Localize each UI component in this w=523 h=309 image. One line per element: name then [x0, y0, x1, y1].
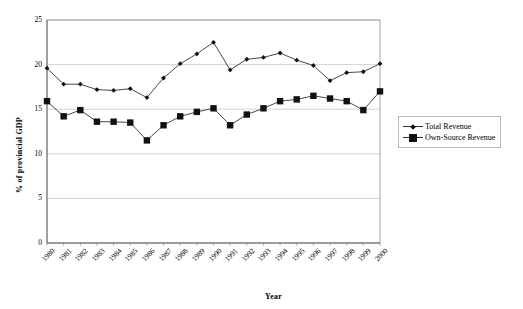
data-point	[360, 107, 366, 113]
plot-border	[47, 20, 380, 243]
data-point	[277, 98, 283, 104]
data-point	[95, 87, 100, 92]
data-point	[160, 122, 166, 128]
data-point	[278, 51, 283, 56]
data-point	[127, 119, 133, 125]
data-point	[227, 122, 233, 128]
data-point	[344, 98, 350, 104]
data-point	[260, 105, 266, 111]
legend-marker-square-icon	[403, 132, 423, 143]
data-point	[378, 61, 383, 66]
data-point	[177, 113, 183, 119]
data-point	[60, 113, 66, 119]
data-point	[294, 58, 299, 63]
data-point	[327, 95, 333, 101]
chart-container: % of provincial GDP 0510152025 198019811…	[0, 0, 523, 309]
legend-marker-diamond-icon	[403, 121, 423, 132]
data-point	[294, 96, 300, 102]
data-point	[110, 118, 116, 124]
data-point	[261, 55, 266, 60]
data-point	[244, 57, 249, 62]
legend-label-own-source-revenue: Own-Source Revenue	[423, 133, 495, 142]
data-point	[77, 107, 83, 113]
data-point	[194, 109, 200, 115]
legend-item-own-source-revenue: Own-Source Revenue	[403, 132, 495, 143]
x-axis-title: Year	[0, 292, 523, 301]
data-point	[244, 111, 250, 117]
data-point	[44, 98, 50, 104]
data-point	[94, 118, 100, 124]
data-point	[144, 137, 150, 143]
chart-legend: Total Revenue Own-Source Revenue	[398, 116, 501, 148]
data-point	[361, 69, 366, 74]
data-point	[78, 82, 83, 87]
data-point	[310, 93, 316, 99]
legend-label-total-revenue: Total Revenue	[423, 122, 471, 131]
data-point	[344, 70, 349, 75]
legend-item-total-revenue: Total Revenue	[403, 121, 495, 132]
plot-area	[0, 0, 523, 309]
data-point	[111, 88, 116, 93]
data-point	[377, 88, 383, 94]
data-point	[210, 105, 216, 111]
data-point	[128, 86, 133, 91]
data-point	[228, 68, 233, 73]
